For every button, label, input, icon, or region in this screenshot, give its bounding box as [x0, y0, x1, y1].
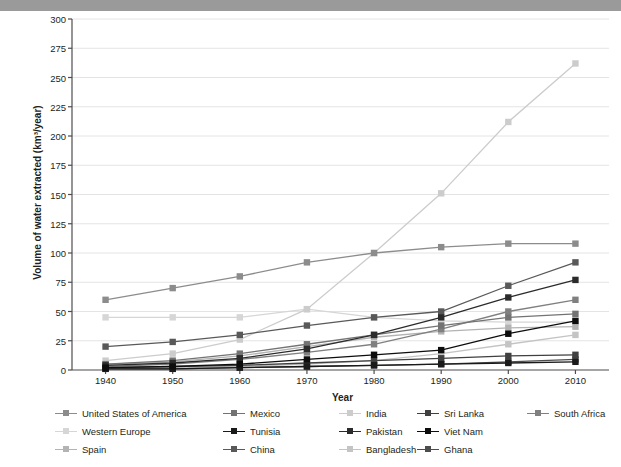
x-tick-label: 1950 — [162, 375, 183, 386]
line-chart: Volume of water extracted (km³/year) 025… — [0, 11, 621, 467]
legend-swatch-icon — [223, 445, 245, 454]
legend-item-label: South Africa — [554, 408, 605, 419]
chart-legend: United States of AmericaMexicoIndiaSri L… — [55, 404, 615, 460]
legend-item[interactable]: United States of America — [55, 404, 223, 422]
legend-item-label: Spain — [82, 444, 106, 455]
legend-item[interactable]: Ghana — [417, 440, 527, 458]
x-tick-label: 1990 — [431, 375, 452, 386]
legend-item[interactable]: China — [223, 440, 339, 458]
legend-item[interactable]: Mexico — [223, 404, 339, 422]
legend-item-label: Pakistan — [366, 426, 402, 437]
legend-swatch-icon — [417, 445, 439, 454]
legend-item[interactable]: Pakistan — [339, 422, 417, 440]
x-axis-title: Year — [75, 392, 610, 403]
series-line — [102, 240, 578, 303]
x-tick-label: 1980 — [363, 375, 384, 386]
legend-swatch-icon — [55, 445, 77, 454]
legend-item[interactable]: Bangladesh — [339, 440, 417, 458]
legend-item-label: Sri Lanka — [444, 408, 484, 419]
x-axis-tick-labels: 19401950196019701980199020002010 — [0, 375, 621, 391]
legend-item-label: Mexico — [250, 408, 280, 419]
legend-item-label: Tunisia — [250, 426, 280, 437]
legend-item[interactable]: Tunisia — [223, 422, 339, 440]
legend-swatch-icon — [339, 445, 361, 454]
legend-item[interactable]: Spain — [55, 440, 223, 458]
legend-item[interactable]: Viet Nam — [417, 422, 527, 440]
legend-item-label: United States of America — [82, 408, 187, 419]
legend-swatch-icon — [527, 409, 549, 418]
legend-swatch-icon — [339, 427, 361, 436]
legend-item[interactable]: India — [339, 404, 417, 422]
legend-item-label: Bangladesh — [366, 444, 416, 455]
legend-item[interactable]: Sri Lanka — [417, 404, 527, 422]
x-tick-label: 1940 — [95, 375, 116, 386]
legend-swatch-icon — [55, 427, 77, 436]
x-tick-label: 2010 — [565, 375, 586, 386]
legend-item-label: Ghana — [444, 444, 473, 455]
legend-swatch-icon — [417, 427, 439, 436]
plot-area — [0, 11, 621, 381]
legend-swatch-icon — [339, 409, 361, 418]
window-title-bar — [0, 0, 621, 11]
legend-item-label: Viet Nam — [444, 426, 483, 437]
legend-item-label: China — [250, 444, 275, 455]
legend-swatch-icon — [223, 409, 245, 418]
legend-swatch-icon — [55, 409, 77, 418]
legend-item-label: Western Europe — [82, 426, 150, 437]
legend-swatch-icon — [223, 427, 245, 436]
legend-item[interactable]: Western Europe — [55, 422, 223, 440]
legend-item[interactable]: South Africa — [527, 404, 615, 422]
x-tick-label: 1960 — [229, 375, 250, 386]
x-tick-label: 1970 — [296, 375, 317, 386]
x-tick-label: 2000 — [498, 375, 519, 386]
legend-item-label: India — [366, 408, 387, 419]
legend-swatch-icon — [417, 409, 439, 418]
